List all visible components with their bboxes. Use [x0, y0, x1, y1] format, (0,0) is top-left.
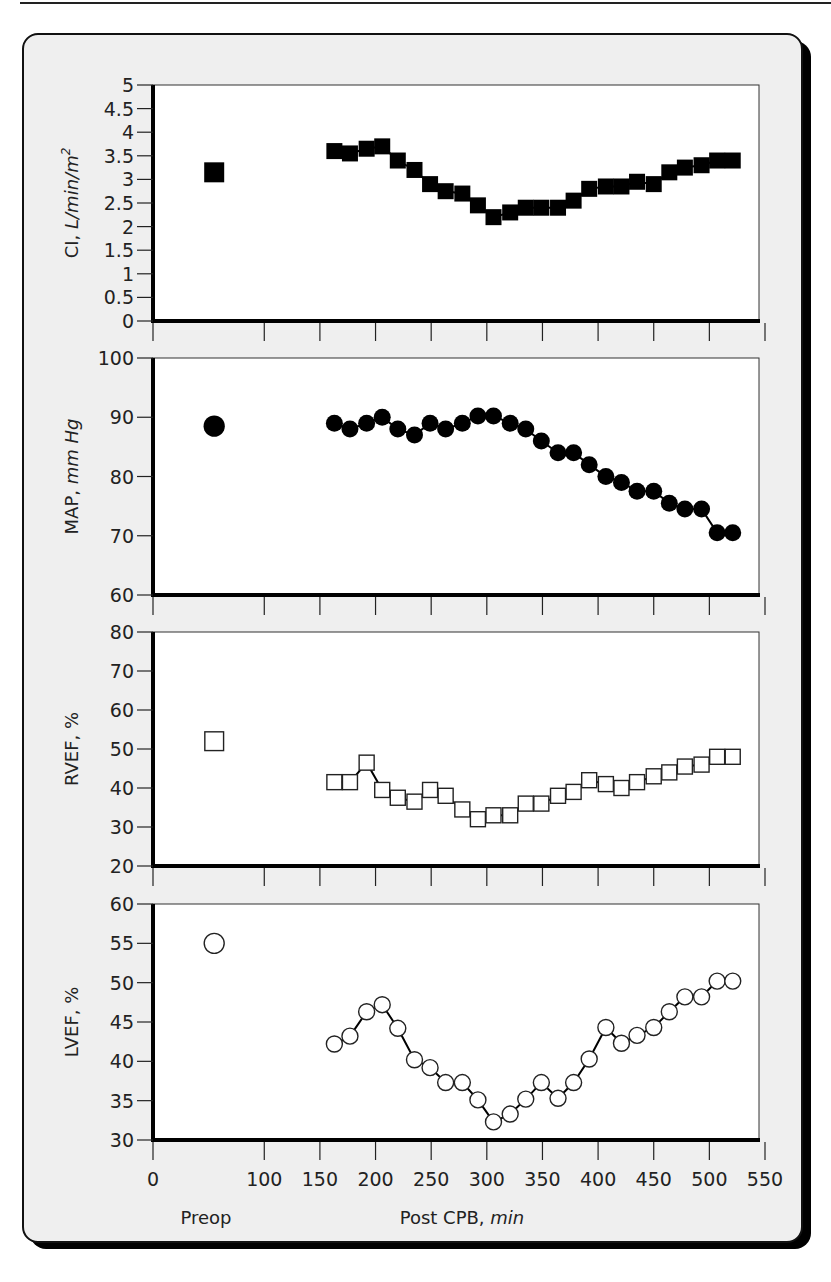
y-tick-label: 40 [110, 777, 134, 799]
x-tick-label: 100 [246, 1168, 282, 1190]
data-point-open-square [518, 796, 533, 811]
data-point-circle [613, 474, 630, 491]
data-point-circle [326, 415, 343, 432]
y-tick-label: 55 [110, 932, 134, 954]
data-point-circle [469, 408, 486, 425]
data-point-open-square [390, 790, 405, 805]
plot-area [153, 85, 759, 321]
data-point-square [709, 153, 725, 169]
data-point-circle [724, 524, 741, 541]
data-point-open-square [375, 782, 390, 797]
y-tick-label: 3 [122, 168, 134, 190]
data-point-open-square [205, 732, 224, 751]
panel-2: 10090807060MAP, mm Hg [61, 347, 765, 615]
data-point-circle [502, 415, 519, 432]
data-point-square [581, 181, 597, 197]
data-point-circle [581, 456, 598, 473]
data-point-square [613, 178, 629, 194]
data-point-open-square [725, 749, 740, 764]
x-tick-label: 350 [524, 1168, 560, 1190]
chart-figure: 54.543.532.521.510.50CI, L/min/m21009080… [0, 0, 831, 1282]
y-tick-label: 50 [110, 972, 134, 994]
data-point-circle [437, 421, 454, 438]
data-point-open-circle [566, 1075, 582, 1091]
data-point-circle [550, 444, 567, 461]
y-axis-title: LVEF, % [61, 987, 82, 1058]
data-point-open-circle [550, 1090, 566, 1106]
data-point-open-square [423, 782, 438, 797]
panel-4: 60555045403530LVEF, % [61, 893, 765, 1160]
data-point-open-square [327, 775, 342, 790]
x-tick-label: 250 [413, 1168, 449, 1190]
data-point-open-square [455, 802, 470, 817]
y-tick-label: 0.5 [104, 286, 134, 308]
data-point-open-square [551, 788, 566, 803]
y-tick-label: 70 [110, 525, 134, 547]
data-point-open-square [662, 765, 677, 780]
data-point-open-circle [374, 997, 390, 1013]
data-point-circle [661, 495, 678, 512]
data-point-open-square [359, 755, 374, 770]
y-tick-label: 45 [110, 1011, 134, 1033]
data-point-circle [629, 483, 646, 500]
data-point-circle [358, 415, 375, 432]
data-point-open-square [503, 808, 518, 823]
data-point-square [694, 157, 710, 173]
y-axis-title: CI, L/min/m2 [59, 148, 82, 259]
data-point-circle [645, 483, 662, 500]
data-point-open-circle [709, 973, 725, 989]
y-tick-label: 2 [122, 216, 134, 238]
data-point-open-square [630, 775, 645, 790]
data-point-open-square [534, 796, 549, 811]
data-point-square [550, 200, 566, 216]
data-point-square [204, 162, 224, 182]
y-axis-title: RVEF, % [61, 712, 82, 786]
data-point-square [661, 164, 677, 180]
data-point-circle [676, 501, 693, 518]
y-tick-label: 1 [122, 263, 134, 285]
data-point-circle [422, 415, 439, 432]
y-tick-label: 60 [110, 699, 134, 721]
data-point-circle [374, 409, 391, 426]
data-point-open-square [677, 759, 692, 774]
y-tick-label: 35 [110, 1090, 134, 1112]
y-tick-label: 4.5 [104, 98, 134, 120]
data-point-open-circle [629, 1027, 645, 1043]
data-point-circle [406, 427, 423, 444]
data-point-open-circle [725, 973, 741, 989]
x-tick-label: 500 [691, 1168, 727, 1190]
data-point-square [646, 176, 662, 192]
plot-area [153, 904, 759, 1140]
data-point-square [422, 176, 438, 192]
data-point-square [533, 200, 549, 216]
x-tick-label: 150 [302, 1168, 338, 1190]
y-axis-title: MAP, mm Hg [61, 419, 82, 535]
data-point-circle [565, 444, 582, 461]
plot-area [153, 358, 759, 595]
data-point-open-circle [204, 933, 224, 953]
y-tick-label: 60 [110, 584, 134, 606]
data-point-circle [485, 408, 502, 425]
panel-1: 54.543.532.521.510.50CI, L/min/m2 [59, 74, 765, 341]
data-point-open-circle [677, 989, 693, 1005]
data-point-square [342, 145, 358, 161]
x-tick-label: 300 [469, 1168, 505, 1190]
data-point-open-circle [326, 1036, 342, 1052]
data-point-open-circle [342, 1028, 358, 1044]
y-tick-label: 4 [122, 121, 134, 143]
y-tick-label: 1.5 [104, 239, 134, 261]
data-point-square [485, 209, 501, 225]
y-tick-label: 100 [98, 347, 134, 369]
y-tick-label: 0 [122, 310, 134, 332]
data-point-open-square [566, 784, 581, 799]
data-point-open-circle [661, 1004, 677, 1020]
y-tick-label: 80 [110, 621, 134, 643]
y-tick-label: 30 [110, 1129, 134, 1151]
y-tick-label: 30 [110, 816, 134, 838]
data-point-open-circle [470, 1092, 486, 1108]
data-point-open-circle [359, 1004, 375, 1020]
y-tick-label: 3.5 [104, 145, 134, 167]
data-point-square [406, 162, 422, 178]
data-point-circle [204, 416, 225, 437]
y-tick-label: 60 [110, 893, 134, 915]
